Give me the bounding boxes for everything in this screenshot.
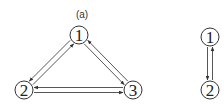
- node-label: 1: [206, 28, 215, 47]
- graph-svg: 12312 (a): [0, 0, 224, 112]
- node-3: 3: [124, 81, 142, 100]
- edge-2-to-1: [33, 44, 74, 85]
- node-label: 2: [206, 81, 215, 100]
- edge-1-to-3: [84, 44, 124, 85]
- node-2: 2: [201, 81, 219, 100]
- node-label: 3: [129, 81, 138, 100]
- nodes-layer: 12312: [15, 26, 219, 100]
- node-label: 1: [75, 26, 84, 45]
- diagram-canvas: 12312 (a): [0, 0, 224, 112]
- edges-layer: [29, 40, 212, 92]
- edge-3-to-1: [88, 40, 128, 81]
- node-1: 1: [70, 26, 88, 45]
- edge-1-to-2: [29, 40, 70, 81]
- panel-a-label: (a): [76, 9, 88, 20]
- node-2: 2: [15, 81, 33, 100]
- node-1: 1: [201, 28, 219, 47]
- node-label: 2: [20, 81, 29, 100]
